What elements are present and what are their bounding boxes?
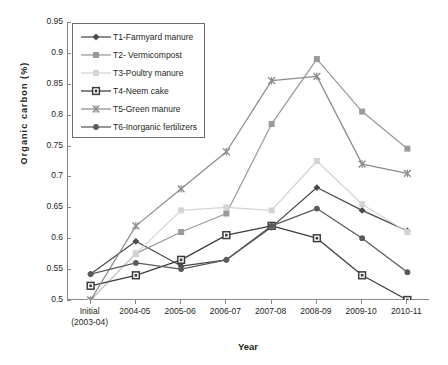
y-tick-mark: [67, 300, 71, 301]
x-axis-title: Year: [67, 341, 429, 352]
y-tick-label: 0.9: [35, 48, 63, 57]
legend-label: T3-Poultry manure: [113, 68, 183, 78]
legend-label: T5-Green manure: [113, 104, 181, 114]
y-tick-mark: [67, 22, 71, 23]
y-tick-mark: [67, 238, 71, 239]
y-tick-label: 0.85: [35, 79, 63, 88]
y-tick-mark: [67, 207, 71, 208]
legend-label: T2- Vermicompost: [113, 50, 182, 60]
x-tick-label-line2: (2003-04): [53, 317, 127, 328]
legend-marker-icon: [79, 120, 113, 134]
x-tick-mark: [135, 300, 136, 304]
y-tick-mark: [67, 269, 71, 270]
legend-marker-icon: [79, 84, 113, 98]
y-tick-label: 0.6: [35, 233, 63, 242]
legend-label: T6-Inorganic fertilizers: [113, 122, 197, 132]
x-tick-mark: [225, 300, 226, 304]
y-tick-label: 0.5: [35, 295, 63, 304]
y-tick-label: 0.55: [35, 264, 63, 273]
legend-marker-icon: [79, 66, 113, 80]
legend-marker-icon: [79, 30, 113, 44]
y-axis-title: Organic carbon (%): [19, 33, 29, 193]
y-tick-mark: [67, 53, 71, 54]
x-tick-mark: [271, 300, 272, 304]
y-tick-label: 0.8: [35, 110, 63, 119]
legend-item-2[interactable]: T2- Vermicompost: [73, 46, 204, 64]
x-tick-label: 2010-11: [369, 306, 443, 317]
y-tick-label: 0.7: [35, 171, 63, 180]
y-tick-label: 0.65: [35, 202, 63, 211]
y-tick-mark: [67, 84, 71, 85]
chart-legend: T1-Farmyard manureT2- VermicompostT3-Pou…: [72, 23, 205, 138]
legend-item-3[interactable]: T3-Poultry manure: [73, 64, 204, 82]
legend-item-6[interactable]: T6-Inorganic fertilizers: [73, 118, 204, 136]
x-tick-mark: [406, 300, 407, 304]
legend-item-4[interactable]: T4-Neem cake: [73, 82, 204, 100]
legend-item-5[interactable]: T5-Green manure: [73, 100, 204, 118]
legend-marker-icon: [79, 48, 113, 62]
legend-label: T4-Neem cake: [113, 86, 169, 96]
organic-carbon-line-chart: Organic carbon (%) 0.950.90.850.80.750.7…: [0, 0, 448, 365]
y-tick-label: 0.75: [35, 141, 63, 150]
x-tick-mark: [316, 300, 317, 304]
legend-item-1[interactable]: T1-Farmyard manure: [73, 28, 204, 46]
y-tick-label: 0.95: [35, 17, 63, 26]
legend-marker-icon: [79, 102, 113, 116]
x-tick-mark: [180, 300, 181, 304]
y-tick-mark: [67, 146, 71, 147]
x-tick-mark: [361, 300, 362, 304]
x-tick-mark: [90, 300, 91, 304]
y-tick-mark: [67, 176, 71, 177]
legend-label: T1-Farmyard manure: [113, 32, 193, 42]
x-tick-label-line1: 2010-11: [369, 306, 443, 317]
y-tick-mark: [67, 115, 71, 116]
